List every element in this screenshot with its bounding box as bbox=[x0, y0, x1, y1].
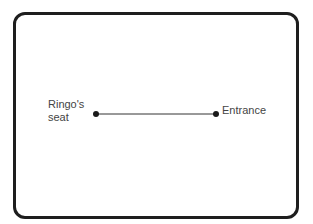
seat-dot-icon bbox=[93, 111, 99, 117]
ringos-seat-label: Ringo's seat bbox=[48, 98, 84, 124]
connection-diagram bbox=[0, 0, 313, 224]
entrance-label: Entrance bbox=[222, 104, 266, 117]
ringos-seat-label-line1: Ringo's bbox=[48, 98, 84, 111]
ringos-seat-label-line2: seat bbox=[48, 111, 84, 124]
entrance-dot-icon bbox=[213, 111, 219, 117]
